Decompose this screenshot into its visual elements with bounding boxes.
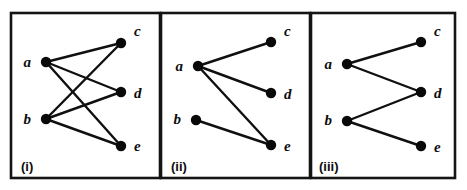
graph-node-a	[342, 59, 352, 69]
graph-node-e	[116, 141, 126, 151]
graph-node-e	[416, 141, 426, 151]
graph-edge-a-d	[46, 62, 121, 92]
graph-edge-b-d	[46, 92, 121, 119]
graph-node-label-e: e	[434, 139, 441, 155]
panel-caption: (i)	[21, 159, 33, 174]
graph-node-b	[41, 114, 51, 124]
graph-node-label-a: a	[325, 56, 333, 72]
panel-caption: (ii)	[171, 159, 187, 174]
graph-edge-a-d	[347, 64, 421, 92]
graph-node-label-e: e	[134, 138, 141, 154]
graph-panel-3: abcde(iii)	[311, 13, 455, 178]
graph-node-a	[193, 61, 203, 71]
graph-node-label-d: d	[284, 86, 292, 102]
graph-panel-2: abcde(ii)	[161, 13, 310, 178]
graph-node-d	[416, 87, 426, 97]
graph-edge-a-c	[347, 42, 421, 64]
graph-node-c	[266, 37, 276, 47]
bipartite-graph-figure: abcde(i)abcde(ii)abcde(iii)	[0, 0, 467, 190]
graph-node-label-e: e	[284, 138, 291, 154]
figure-canvas: abcde(i)abcde(ii)abcde(iii)	[0, 0, 467, 190]
graph-node-label-a: a	[176, 58, 184, 74]
graph-node-label-b: b	[325, 112, 333, 128]
graph-edge-b-d	[347, 92, 421, 121]
graph-node-c	[416, 37, 426, 47]
graph-node-label-c: c	[434, 23, 441, 39]
graph-node-d	[116, 87, 126, 97]
graph-node-label-d: d	[434, 85, 442, 101]
graph-node-e	[266, 140, 276, 150]
graph-node-b	[191, 115, 201, 125]
graph-edge-a-c	[46, 43, 121, 62]
graph-node-c	[116, 38, 126, 48]
graph-node-d	[266, 88, 276, 98]
graph-edge-a-c	[198, 42, 271, 66]
graph-node-a	[41, 57, 51, 67]
graph-node-label-c: c	[134, 23, 141, 39]
graph-node-b	[342, 116, 352, 126]
graph-node-label-c: c	[284, 23, 291, 39]
graph-edge-b-e	[347, 121, 421, 146]
graph-node-label-b: b	[174, 111, 182, 127]
graph-node-label-d: d	[134, 85, 142, 101]
panel-caption: (iii)	[319, 159, 339, 174]
graph-edge-b-c	[46, 43, 121, 119]
graph-node-label-a: a	[24, 54, 32, 70]
graph-panel-1: abcde(i)	[11, 13, 160, 178]
graph-node-label-b: b	[24, 111, 32, 127]
